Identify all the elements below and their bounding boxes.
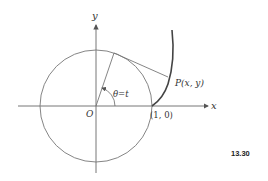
figure-number: 13.30 xyxy=(231,149,250,158)
start-point-label: (1, 0) xyxy=(150,110,173,120)
x-axis-label: x xyxy=(211,100,217,111)
point-p-label: P(x, y) xyxy=(174,78,204,88)
involute-diagram: y x O θ=t P(x, y) (1, 0) 13.30 xyxy=(0,0,268,181)
involute-curve xyxy=(152,30,173,106)
origin-label: O xyxy=(86,109,94,119)
y-axis-label: y xyxy=(91,10,98,21)
radius-line xyxy=(96,53,114,106)
angle-label: θ=t xyxy=(113,89,129,99)
